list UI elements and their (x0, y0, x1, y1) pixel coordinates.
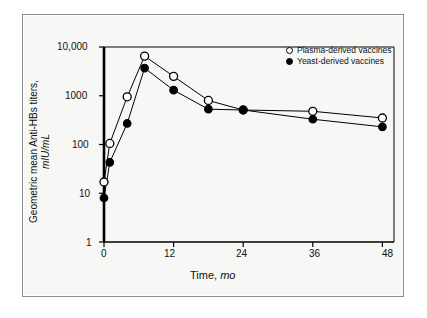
y-axis-title-text: Geometric mean Anti-HBs titers, (28, 80, 39, 223)
y-axis-tick-label-10000: 10,000 (57, 42, 88, 52)
data-point (106, 139, 114, 147)
x-axis-title-units: mo (220, 269, 235, 281)
x-axis-tick-label-0: 0 (101, 249, 107, 259)
x-axis-title: Time, mo (190, 270, 235, 281)
data-point (379, 123, 387, 131)
legend-item-plasma-derived: Plasma-derived vaccines (286, 45, 393, 56)
chart-legend: Plasma-derived vaccines Yeast-derived va… (283, 44, 395, 69)
legend-label-plasma-derived: Plasma-derived vaccines (297, 46, 391, 55)
x-axis-title-text: Time, (190, 269, 217, 281)
data-point (100, 178, 108, 186)
data-point (205, 105, 213, 113)
data-point (309, 115, 317, 123)
data-point (123, 93, 131, 101)
data-point (204, 96, 212, 104)
data-point (170, 86, 178, 94)
legend-label-yeast-derived: Yeast-derived vaccines (297, 57, 384, 66)
legend-item-yeast-derived: Yeast-derived vaccines (286, 56, 393, 67)
data-point (141, 52, 149, 60)
x-axis-tick-label-36: 36 (309, 249, 320, 259)
data-point (123, 120, 131, 128)
y-axis-title-units: mIU/mL (39, 134, 50, 169)
data-point (309, 107, 317, 115)
x-axis-tick-label-24: 24 (236, 249, 247, 259)
filled-circle-icon (286, 58, 293, 65)
plot-frame (104, 47, 394, 242)
data-point (239, 106, 247, 114)
y-axis-tick-label-1000: 1000 (65, 91, 87, 101)
x-axis-tick-label-48: 48 (382, 249, 393, 259)
open-circle-icon (286, 47, 293, 54)
series-line-0 (104, 56, 382, 182)
y-axis-tick-label-100: 100 (72, 140, 89, 150)
data-point (378, 114, 386, 122)
series-markers-1 (100, 64, 386, 202)
y-axis-title: Geometric mean Anti-HBs titers, mIU/mL (28, 62, 51, 242)
data-point (106, 159, 114, 167)
figure-root: 10,000 1000 100 10 1 0 12 24 36 48 Geome… (0, 0, 427, 318)
data-point (141, 64, 149, 72)
data-point (100, 194, 108, 202)
y-axis-tick-label-1: 1 (86, 238, 92, 248)
series-line-1 (104, 68, 382, 198)
data-point (170, 72, 178, 80)
y-axis-tick-label-10: 10 (79, 189, 90, 199)
x-axis-tick-label-12: 12 (164, 249, 175, 259)
